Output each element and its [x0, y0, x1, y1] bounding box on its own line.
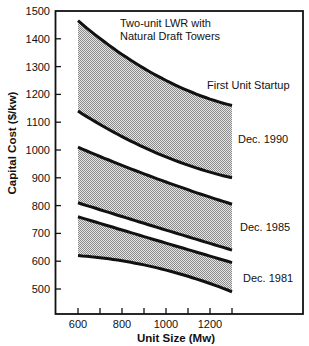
annotation-line-2: Natural Draft Towers: [120, 30, 221, 42]
band-label-1985: Dec. 1985: [240, 221, 290, 233]
band-label-1981: Dec. 1981: [243, 272, 293, 284]
y-tick-label: 1000: [26, 144, 50, 156]
y-tick-label: 600: [32, 255, 50, 267]
legend-title: First Unit Startup: [207, 79, 290, 91]
x-tick-label: 1200: [198, 318, 222, 330]
y-tick-label: 1100: [26, 116, 50, 128]
x-axis-title: Unit Size (Mw): [137, 332, 215, 344]
y-axis-title: Capital Cost ($/kw): [6, 91, 18, 194]
x-tick-label: 800: [113, 318, 131, 330]
y-tick-label: 700: [32, 227, 50, 239]
y-tick-label: 500: [32, 283, 50, 295]
y-tick-label: 1500: [26, 5, 50, 17]
band-label-1990: Dec. 1990: [238, 133, 288, 145]
x-tick-label: 600: [69, 318, 87, 330]
chart: 500600700800900100011001200130014001500 …: [0, 0, 309, 346]
y-tick-label: 1300: [26, 61, 50, 73]
y-tick-label: 1200: [26, 88, 50, 100]
y-tick-label: 1400: [26, 33, 50, 45]
annotation-line-1: Two-unit LWR with: [120, 17, 211, 29]
x-axis: 60080010001200: [69, 308, 232, 330]
x-tick-label: 1000: [154, 318, 178, 330]
y-tick-label: 800: [32, 200, 50, 212]
y-tick-label: 900: [32, 172, 50, 184]
